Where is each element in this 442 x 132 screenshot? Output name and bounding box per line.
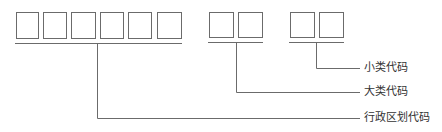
small-class-connector (317, 43, 361, 69)
admin-division-label: 行政区划代码 (364, 112, 430, 124)
small-class-label: 小类代码 (364, 62, 408, 74)
admin-division-digit-boxes (17, 13, 182, 39)
large-class-label: 大类代码 (364, 86, 408, 98)
small-class-digit-boxes (291, 13, 344, 38)
large-class-connector (237, 43, 361, 93)
admin-division-connector (98, 44, 361, 119)
large-class-digit-boxes (210, 13, 263, 38)
